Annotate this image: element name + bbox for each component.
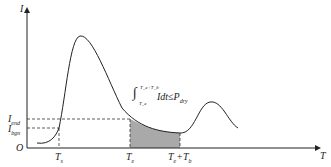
- shaded-integral-area: [130, 119, 180, 148]
- integral-expression: Idt≤Pdry: [157, 92, 188, 104]
- chart-canvas: [0, 0, 331, 167]
- x-tick-te: Te: [126, 152, 134, 164]
- integral-sign: ∫: [133, 86, 137, 100]
- x-axis-label: T: [320, 151, 326, 161]
- origin-label: O: [16, 143, 23, 153]
- integral-lower-limit: T_e: [139, 101, 147, 106]
- x-tick-ts: Ts: [55, 152, 63, 164]
- integral-upper-limit: T_e+T_b: [140, 85, 159, 90]
- y-tick-i-bgn: Ibgn: [8, 124, 20, 136]
- y-axis-label: I: [20, 4, 23, 14]
- x-tick-te-plus-tb: Te+Tb: [168, 152, 192, 164]
